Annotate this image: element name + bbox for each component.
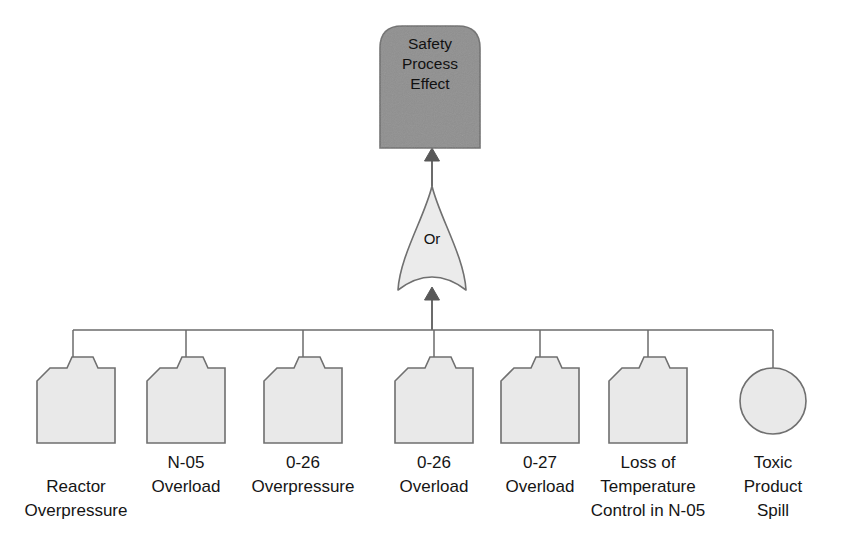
event-label-toxic-product-spill: Spill	[757, 501, 789, 520]
event-shape-0-26-overpressure	[264, 357, 342, 443]
event-shape-reactor-overpressure	[37, 357, 115, 443]
event-label-loss-of-temperature-control-in-n-05: Control in N-05	[591, 501, 705, 520]
top-event-label-line: Process	[402, 55, 458, 72]
event-label-loss-of-temperature-control-in-n-05: Loss of	[621, 453, 676, 472]
event-label-n-05-overload: N-05	[168, 453, 205, 472]
top-event-label-line: Safety	[408, 35, 452, 52]
basic-event-shape-toxic-product-spill	[740, 368, 806, 434]
event-label-loss-of-temperature-control-in-n-05: Temperature	[600, 477, 695, 496]
event-label-n-05-overload: Overload	[152, 477, 221, 496]
event-shape-n-05-overload	[147, 357, 225, 443]
event-label-reactor-overpressure: Overpressure	[25, 501, 128, 520]
fault-tree-canvas: SafetyProcessEffectOrReactorOverpressure…	[0, 0, 847, 557]
bus-to-gate-arrowhead	[425, 287, 440, 300]
event-label-reactor-overpressure: Reactor	[46, 477, 106, 496]
event-label-toxic-product-spill: Toxic	[754, 453, 793, 472]
gate-to-top-event-arrowhead	[425, 148, 440, 161]
event-shape-0-26-overload	[395, 357, 473, 443]
event-label-0-27-overload: Overload	[506, 477, 575, 496]
top-event-label-line: Effect	[410, 75, 450, 92]
event-label-toxic-product-spill: Product	[744, 477, 803, 496]
event-label-0-26-overload: 0-26	[417, 453, 451, 472]
fault-tree-diagram: SafetyProcessEffectOrReactorOverpressure…	[0, 0, 847, 557]
event-label-0-26-overload: Overload	[400, 477, 469, 496]
or-gate-label: Or	[424, 230, 441, 247]
event-shape-0-27-overload	[501, 357, 579, 443]
event-label-0-27-overload: 0-27	[523, 453, 557, 472]
event-label-0-26-overpressure: Overpressure	[252, 477, 355, 496]
event-shape-loss-of-temperature-control-in-n-05	[609, 357, 687, 443]
event-label-0-26-overpressure: 0-26	[286, 453, 320, 472]
